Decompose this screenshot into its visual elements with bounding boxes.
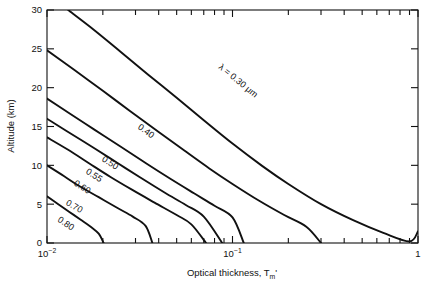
y-axis-title: Altitude (km) [5,99,16,152]
curve-labels-layer: λ = 0.30 μm0.400.500.550.600.700.80 [56,62,260,233]
y-tick-label: 25 [31,43,42,54]
y-tick-label: 0 [37,237,42,248]
x-tick-label: 10−1 [223,247,242,259]
y-tick-label: 5 [37,199,42,210]
x-tick-label: 1 [415,248,420,259]
curves-layer [47,10,418,243]
tick-marks [47,10,418,243]
x-tick-labels: 10−210−11 [38,247,421,259]
y-tick-label: 30 [31,4,42,15]
y-tick-label: 15 [31,121,42,132]
curve-label-0.40: 0.40 [136,122,156,140]
curve-label-0.60: 0.60 [72,178,92,196]
axes-frame [47,10,418,243]
curve-label-0.80: 0.80 [56,214,76,232]
curve-label-0.50: 0.50 [100,154,120,172]
y-tick-label: 20 [31,82,42,93]
curve-label-0.55: 0.55 [84,166,104,184]
y-tick-label: 10 [31,160,42,171]
figure-container: λ = 0.30 μm0.400.500.550.600.700.80 10−2… [0,0,434,289]
x-axis-title: Optical thickness, Tm' [187,267,277,280]
chart-plot: λ = 0.30 μm0.400.500.550.600.700.80 10−2… [0,0,434,289]
curve-label-0.30: λ = 0.30 μm [217,62,260,100]
curve-0.30 [68,10,418,241]
curve-label-0.70: 0.70 [64,198,84,215]
y-tick-labels: 051015202530 [31,4,42,248]
x-tick-label: 10−2 [38,247,57,259]
curve-0.40 [47,50,321,243]
